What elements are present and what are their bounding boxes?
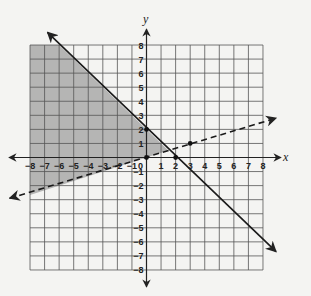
x-tick-label: 4 [202, 161, 207, 171]
y-tick-label: 6 [138, 69, 143, 79]
x-tick-label: 2 [173, 161, 178, 171]
y-tick-label: 1 [138, 139, 143, 149]
y-tick-label: −5 [133, 223, 143, 233]
x-tick-label: −5 [69, 161, 79, 171]
x-tick-label: 5 [217, 161, 222, 171]
x-tick-label: −7 [39, 161, 49, 171]
coordinate-plane: −8−7−6−5−4−3−2−1012345678−8−7−6−5−4−3−2−… [0, 0, 311, 296]
x-tick-label: −8 [25, 161, 35, 171]
y-tick-label: −2 [133, 181, 143, 191]
x-tick-label: −6 [54, 161, 64, 171]
y-tick-label: 2 [138, 125, 143, 135]
y-tick-label: −1 [133, 167, 143, 177]
y-tick-label: −6 [133, 237, 143, 247]
x-tick-label: −4 [83, 161, 93, 171]
x-tick-label: 1 [159, 161, 164, 171]
plotted-point [144, 127, 149, 132]
y-tick-label: 5 [138, 83, 143, 93]
shaded-solution-region [30, 45, 168, 195]
y-tick-label: 8 [138, 41, 143, 51]
plotted-point [173, 155, 178, 160]
x-tick-label: 8 [260, 161, 265, 171]
y-tick-label: 7 [138, 55, 143, 65]
y-tick-label: 4 [138, 97, 143, 107]
shaded-region-polygon [30, 45, 168, 195]
y-tick-label: −3 [133, 195, 143, 205]
y-axis-label: y [142, 12, 149, 26]
x-axis-label: x [282, 150, 289, 164]
y-tick-label: −4 [133, 209, 143, 219]
plotted-point [188, 141, 193, 146]
x-tick-label: 6 [231, 161, 236, 171]
y-tick-label: −8 [133, 265, 143, 275]
x-tick-label: 7 [246, 161, 251, 171]
plotted-point [144, 155, 149, 160]
y-tick-label: −7 [133, 251, 143, 261]
